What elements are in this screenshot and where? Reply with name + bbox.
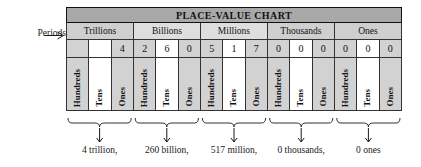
place-label-ones-14: Ones <box>379 58 401 111</box>
place-label-text: Ones <box>252 87 261 107</box>
digit-cell-8[interactable]: 7 <box>245 40 267 58</box>
arrow-head-4 <box>365 138 371 142</box>
place-label-text: Hundreds <box>207 69 216 107</box>
place-label-text: Tens <box>162 89 171 107</box>
place-label-ones-2: Ones <box>111 58 133 111</box>
digit-cell-7[interactable]: 1 <box>223 40 245 58</box>
place-label-text: Tens <box>296 89 305 107</box>
digit-cell-10[interactable]: 0 <box>290 40 312 58</box>
place-label-tens-13: Tens <box>357 58 379 111</box>
period-header-trillions: Trillions <box>67 23 134 40</box>
place-label-text: Tens <box>229 89 238 107</box>
digit-cell-13[interactable]: 0 <box>357 40 379 58</box>
chart-title: PLACE-VALUE CHART <box>67 8 402 23</box>
period-caption-4: 0 ones <box>308 145 421 155</box>
digit-row: 4260517000000 <box>67 40 402 58</box>
period-header-thousands: Thousands <box>267 23 334 40</box>
place-label-ones-11: Ones <box>312 58 334 111</box>
brace-0 <box>68 118 131 127</box>
place-label-text: Hundreds <box>341 69 350 107</box>
arrow-head-3 <box>298 138 304 142</box>
digit-cell-6[interactable]: 5 <box>200 40 222 58</box>
place-label-ones-5: Ones <box>178 58 200 111</box>
place-label-hundreds-3: Hundreds <box>133 58 155 111</box>
arrow-head-2 <box>231 138 237 142</box>
place-label-hundreds-0: Hundreds <box>67 58 89 111</box>
brace-1 <box>135 118 198 127</box>
place-label-text: Hundreds <box>274 69 283 107</box>
brace-2 <box>202 118 265 127</box>
digit-cell-0[interactable] <box>67 40 89 58</box>
place-label-tens-7: Tens <box>223 58 245 111</box>
arrow-right-icon <box>44 31 66 40</box>
place-label-text: Hundreds <box>73 69 82 107</box>
period-header-ones: Ones <box>334 23 401 40</box>
brace-3 <box>270 118 333 127</box>
place-label-ones-8: Ones <box>245 58 267 111</box>
period-header-billions: Billions <box>133 23 200 40</box>
place-label-hundreds-6: Hundreds <box>200 58 222 111</box>
place-label-hundreds-9: Hundreds <box>267 58 289 111</box>
digit-cell-12[interactable]: 0 <box>334 40 356 58</box>
place-value-chart-table: PLACE-VALUE CHART TrillionsBillionsMilli… <box>66 7 402 111</box>
place-label-tens-1: Tens <box>89 58 111 111</box>
arrow-head-1 <box>164 138 170 142</box>
digit-cell-2[interactable]: 4 <box>111 40 133 58</box>
place-label-text: Tens <box>363 89 372 107</box>
digit-cell-3[interactable]: 2 <box>133 40 155 58</box>
period-header-millions: Millions <box>200 23 267 40</box>
period-header-row: TrillionsBillionsMillionsThousandsOnes <box>67 23 402 40</box>
arrow-head-0 <box>97 138 103 142</box>
place-label-text: Ones <box>118 87 127 107</box>
digit-cell-14[interactable]: 0 <box>379 40 401 58</box>
place-label-row: HundredsTensOnesHundredsTensOnesHundreds… <box>67 58 402 111</box>
digit-cell-9[interactable]: 0 <box>267 40 289 58</box>
digit-cell-5[interactable]: 0 <box>178 40 200 58</box>
digit-cell-4[interactable]: 6 <box>156 40 178 58</box>
digit-cell-11[interactable]: 0 <box>312 40 334 58</box>
title-row: PLACE-VALUE CHART <box>67 8 402 23</box>
place-label-text: Tens <box>95 89 104 107</box>
digit-cell-1[interactable] <box>89 40 111 58</box>
place-label-text: Hundreds <box>140 69 149 107</box>
place-label-text: Ones <box>185 87 194 107</box>
place-label-hundreds-12: Hundreds <box>334 58 356 111</box>
place-label-tens-10: Tens <box>290 58 312 111</box>
place-label-text: Ones <box>319 87 328 107</box>
place-label-text: Ones <box>386 87 395 107</box>
place-label-tens-4: Tens <box>156 58 178 111</box>
brace-4 <box>337 118 400 127</box>
